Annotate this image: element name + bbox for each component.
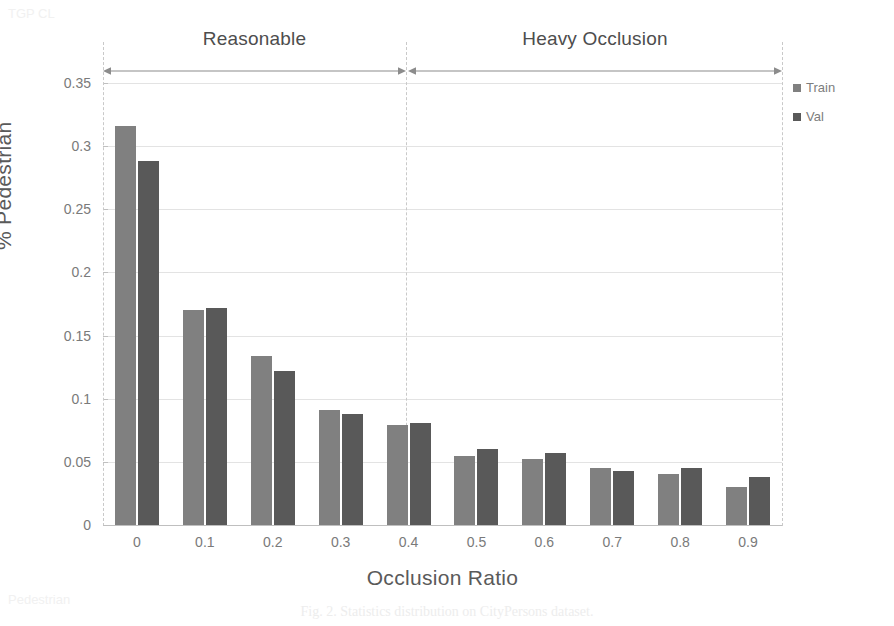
x-axis-tick-label: 0.8 [650,534,710,550]
gridline [103,272,782,273]
band-label-reasonable: Reasonable [103,28,406,50]
x-axis-tick-label: 0.5 [446,534,506,550]
gridline [103,399,782,400]
bar-train-0.4 [387,425,408,525]
gridline [103,209,782,210]
x-axis-tick-label: 0.9 [718,534,778,550]
y-axis-tick-label: 0.15 [47,328,91,344]
figure-caption: Fig. 2. Statistics distribution on CityP… [0,604,894,620]
x-axis-tick-label: 0.7 [582,534,642,550]
x-axis-tick-label: 0.4 [379,534,439,550]
x-axis-title: Occlusion Ratio [103,566,782,590]
bar-val-0.7 [613,471,634,525]
y-axis-tick-label: 0.05 [47,454,91,470]
bar-train-0.2 [251,356,272,525]
y-axis-tick-label: 0 [47,517,91,533]
y-axis-tick-label: 0.35 [47,75,91,91]
bar-val-0.2 [274,371,295,525]
band-label-heavy-occlusion: Heavy Occlusion [408,28,782,50]
double-headed-arrow-icon [103,65,406,76]
square-swatch-icon [793,113,801,121]
square-swatch-icon [793,84,801,92]
bar-train-0 [115,126,136,525]
legend-item-label: Val [806,109,824,124]
bar-train-0.5 [454,456,475,525]
y-axis-tick-label: 0.1 [47,391,91,407]
double-headed-arrow-icon [408,65,782,76]
bar-train-0.3 [319,410,340,525]
gridline [103,146,782,147]
bar-val-0.6 [545,453,566,525]
y-axis-tick-label: 0.2 [47,264,91,280]
chart-legend: TrainVal [793,80,883,138]
gridline [103,462,782,463]
figure-container: TGP CL Pedestrian ReasonableHeavy Occlus… [0,0,894,626]
bar-val-0.1 [206,308,227,525]
plot-left-edge-divider [103,42,104,526]
bar-val-0 [138,161,159,525]
page-bleed-text: TGP CL [8,6,55,21]
x-axis-tick-label: 0.3 [311,534,371,550]
bar-val-0.5 [477,449,498,525]
bar-val-0.4 [410,423,431,525]
y-axis-tick-label: 0.25 [47,201,91,217]
gridline [103,336,782,337]
x-axis-tick-label: 0.1 [175,534,235,550]
x-axis-tick-label: 0.2 [243,534,303,550]
x-axis-line [103,525,782,526]
x-axis-tick-label: 0 [107,534,167,550]
bar-train-0.8 [658,474,679,525]
bar-val-0.9 [749,477,770,525]
legend-item-label: Train [806,80,835,95]
y-axis-title: % Pedestrian [0,121,16,250]
bar-train-0.9 [726,487,747,525]
x-axis-tick-label: 0.6 [514,534,574,550]
legend-item-val[interactable]: Val [793,109,883,124]
y-axis-tick-label: 0.3 [47,138,91,154]
gridline [103,83,782,84]
bar-train-0.6 [522,459,543,525]
bar-train-0.1 [183,310,204,525]
bar-val-0.8 [681,468,702,525]
bar-train-0.7 [590,468,611,525]
plot-right-edge-divider [782,42,783,526]
bar-val-0.3 [342,414,363,525]
legend-item-train[interactable]: Train [793,80,883,95]
